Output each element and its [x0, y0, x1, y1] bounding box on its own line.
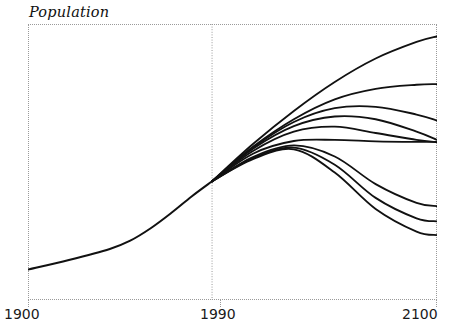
x-axis-label-start: 1900 — [4, 306, 40, 322]
projection-curve-2 — [212, 84, 437, 181]
x-axis-label-end: 2100 — [402, 306, 438, 322]
projection-curve-9 — [212, 149, 437, 235]
series-paths-group — [28, 36, 437, 269]
chart-title: Population — [29, 4, 109, 20]
x-axis-label-middle: 1990 — [200, 306, 236, 322]
plot-area — [28, 24, 437, 300]
historical-curve — [28, 181, 212, 269]
curves-canvas — [28, 24, 437, 300]
projection-curve-4 — [212, 116, 437, 181]
population-projection-chart: Population 1900 1990 2100 — [0, 0, 450, 333]
